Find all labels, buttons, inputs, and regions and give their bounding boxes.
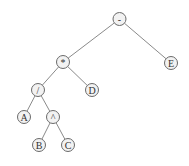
tree-node-B: B (33, 139, 46, 152)
node-label: E (168, 58, 174, 69)
tree-node-A: A (18, 111, 31, 124)
node-label: B (36, 140, 43, 151)
tree-node-minus: - (113, 13, 126, 26)
edge-star-slash (42, 67, 58, 85)
node-label: ^ (51, 112, 56, 123)
tree-node-C: C (62, 139, 75, 152)
tree-node-E: E (165, 57, 178, 70)
tree-node-star: * (57, 56, 70, 69)
node-label: / (37, 85, 40, 96)
tree-nodes: -*E/DA^BC (18, 13, 178, 152)
tree-node-slash: / (32, 84, 45, 97)
edge-caret-C (56, 123, 65, 140)
node-label: A (20, 112, 28, 123)
node-label: D (88, 85, 95, 96)
edge-minus-E (124, 23, 166, 59)
edge-minus-star (68, 23, 114, 58)
edge-slash-caret (41, 96, 50, 112)
tree-node-caret: ^ (47, 111, 60, 124)
edge-slash-A (27, 96, 35, 111)
expression-tree-diagram: -*E/DA^BC (0, 0, 189, 166)
edge-star-D (68, 67, 88, 86)
node-label: * (61, 57, 66, 68)
tree-node-D: D (86, 84, 99, 97)
edge-caret-B (42, 123, 50, 139)
tree-edges (27, 23, 166, 139)
node-label: - (118, 14, 121, 25)
node-label: C (65, 140, 72, 151)
